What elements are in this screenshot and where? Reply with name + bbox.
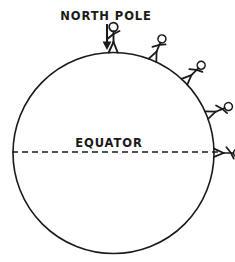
north-pole-label: NORTH POLE bbox=[60, 9, 152, 23]
equator-label: EQUATOR bbox=[75, 136, 142, 150]
stick-figure-lower-mid bbox=[205, 100, 235, 121]
stick-figure-upper-mid bbox=[148, 33, 169, 63]
stick-figure-pole bbox=[107, 23, 119, 53]
comic-panel: NORTH POLE EQUATOR bbox=[0, 0, 235, 262]
stick-figure-equator bbox=[214, 147, 235, 158]
earth-circle bbox=[13, 53, 214, 254]
sphere-diagram: NORTH POLE EQUATOR bbox=[0, 0, 235, 262]
